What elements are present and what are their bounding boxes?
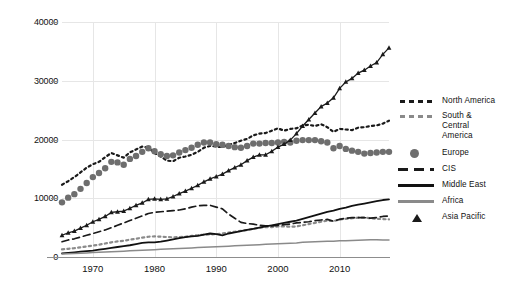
legend-label: Asia Pacific — [436, 212, 486, 222]
legend-label: CIS — [436, 164, 456, 174]
europe-marker-icon — [396, 148, 436, 159]
legend-label: Africa — [436, 196, 464, 206]
north-america-marker-icon — [396, 96, 436, 107]
asia-pacific-marker-icon — [396, 212, 436, 223]
series-europe — [59, 137, 392, 206]
y-axis-tick — [51, 140, 58, 141]
legend-label: South & Central America — [436, 111, 500, 141]
legend: North America South & Central America Eu… — [396, 96, 508, 227]
middle-east-marker-icon — [396, 180, 436, 191]
x-axis-line — [47, 257, 390, 258]
y-axis-tick — [51, 81, 58, 82]
y-axis-tick — [51, 198, 58, 199]
y-axis: 010000200003000040000 — [0, 0, 58, 297]
legend-label: North America — [436, 96, 495, 106]
legend-item-north-america[interactable]: North America — [396, 96, 508, 107]
legend-item-middle-east[interactable]: Middle East — [396, 180, 508, 191]
legend-label: Europe — [436, 148, 469, 158]
africa-marker-icon — [396, 196, 436, 207]
legend-item-cis[interactable]: CIS — [396, 164, 508, 175]
legend-item-africa[interactable]: Africa — [396, 196, 508, 207]
series-layer — [62, 22, 389, 257]
x-axis-tick-label: 1990 — [206, 263, 227, 274]
legend-item-south-central-america[interactable]: South & Central America — [396, 111, 508, 141]
cis-marker-icon — [396, 164, 436, 175]
y-axis-tick — [51, 22, 58, 23]
x-axis-tick-label: 2010 — [329, 263, 350, 274]
series-north-america — [62, 121, 389, 185]
south-central-america-marker-icon — [396, 111, 436, 122]
legend-item-asia-pacific[interactable]: Asia Pacific — [396, 212, 508, 223]
series-middle-east — [62, 199, 389, 253]
legend-item-europe[interactable]: Europe — [396, 148, 508, 159]
plot-area — [62, 22, 389, 257]
x-axis-tick-label: 1970 — [82, 263, 103, 274]
x-axis-tick-label: 2000 — [267, 263, 288, 274]
chart-container: 010000200003000040000 197019801990200020… — [0, 0, 508, 297]
legend-label: Middle East — [436, 180, 486, 190]
x-axis-tick-label: 1980 — [144, 263, 165, 274]
